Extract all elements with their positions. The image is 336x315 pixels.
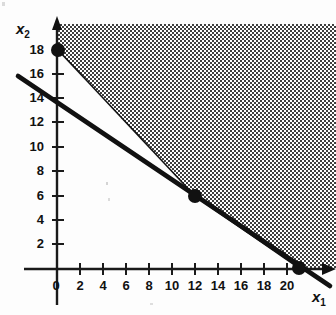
graph-canvas — [0, 0, 336, 315]
y-tick-label: 14 — [6, 90, 44, 105]
y-tick-label: 16 — [6, 66, 44, 81]
vertex-b-dot — [188, 189, 202, 203]
y-axis — [52, 16, 64, 305]
scan-speck — [150, 303, 153, 305]
x-axis-title: x1 — [312, 288, 326, 308]
scan-speck — [2, 2, 5, 6]
y-tick-label: 10 — [6, 139, 44, 154]
scan-speck — [108, 198, 110, 201]
x-tick-label: 20 — [273, 278, 301, 293]
y-axis-title: x2 — [16, 20, 30, 40]
x-axis-title-subscript: 1 — [320, 297, 326, 308]
y-tick-label: 18 — [6, 42, 44, 57]
y-tick-label: 4 — [6, 212, 44, 227]
vertex-c-dot — [292, 261, 306, 275]
x-axis — [24, 263, 336, 275]
vertex-a-dot — [51, 43, 65, 57]
y-tick-label: 6 — [6, 188, 44, 203]
y-axis-title-subscript: 2 — [24, 29, 30, 40]
y-tick-label: 12 — [6, 114, 44, 129]
scan-speck — [106, 182, 108, 185]
y-tick-label: 2 — [6, 236, 44, 251]
y-tick-label: 8 — [6, 163, 44, 178]
feasible-region-shading — [58, 24, 336, 268]
linear-programming-figure: 18 16 14 12 10 8 6 4 2 0 2 4 6 8 10 12 1… — [0, 0, 336, 315]
